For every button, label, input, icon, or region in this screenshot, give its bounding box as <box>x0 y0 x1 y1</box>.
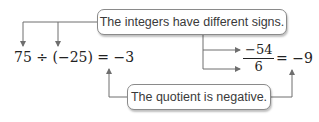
callout-quotient-negative-text: The quotient is negative. <box>131 90 267 104</box>
fraction-numerator: −54 <box>243 42 274 59</box>
fraction-expression: −54 6 <box>243 42 274 75</box>
fraction-denominator: 6 <box>243 59 274 75</box>
equation-division: 75 ÷ (−25) = −3 <box>14 49 134 65</box>
callout-quotient-negative: The quotient is negative. <box>127 84 271 110</box>
callout-different-signs: The integers have different signs. <box>97 9 287 35</box>
fraction-result: = −9 <box>276 50 313 66</box>
callout-different-signs-text: The integers have different signs. <box>100 15 285 29</box>
